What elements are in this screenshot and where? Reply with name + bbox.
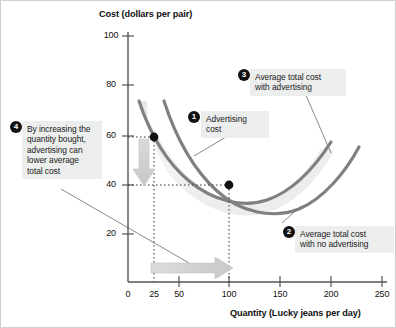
data-point-q100-c40 [225, 181, 234, 190]
x-tick-label-50: 50 [169, 289, 189, 299]
callout-1-badge: 1 [188, 111, 200, 123]
x-axis-title: Quantity (Lucky jeans per day) [230, 308, 361, 318]
callout-3-text: Average total cost with advertising [250, 69, 346, 96]
y-tick-label-60: 60 [100, 130, 122, 140]
quantity-increase-arrow [151, 257, 233, 279]
x-tick-label-100: 100 [217, 289, 241, 299]
x-tick-label-200: 200 [319, 289, 343, 299]
x-tick-label-0: 0 [118, 289, 138, 299]
y-tick-label-20: 20 [100, 228, 122, 238]
y-tick-label-100: 100 [100, 30, 122, 40]
callout-1-text: Advertising cost [201, 111, 269, 138]
x-tick-label-150: 150 [268, 289, 292, 299]
cost-decrease-arrow [133, 139, 155, 186]
x-tick-label-25: 25 [144, 289, 164, 299]
y-axis-title: Cost (dollars per pair) [99, 9, 192, 19]
callout-2-text: Average total cost with no advertising [295, 226, 394, 253]
callout-3-leader-line [305, 93, 331, 153]
callout-4-text: By increasing the quantity bought, adver… [22, 121, 102, 179]
economics-cost-chart-figure: Cost (dollars per pair) Quantity (Lucky … [0, 0, 396, 328]
y-tick-label-40: 40 [100, 179, 122, 189]
callout-4-leader-line [61, 189, 189, 263]
data-point-q25-c60 [150, 133, 159, 142]
x-tick-label-250: 250 [370, 289, 394, 299]
callout-4-badge: 4 [10, 121, 22, 133]
callout-2-badge: 2 [283, 226, 295, 238]
callout-3-badge: 3 [238, 69, 250, 81]
y-tick-label-80: 80 [100, 79, 122, 89]
